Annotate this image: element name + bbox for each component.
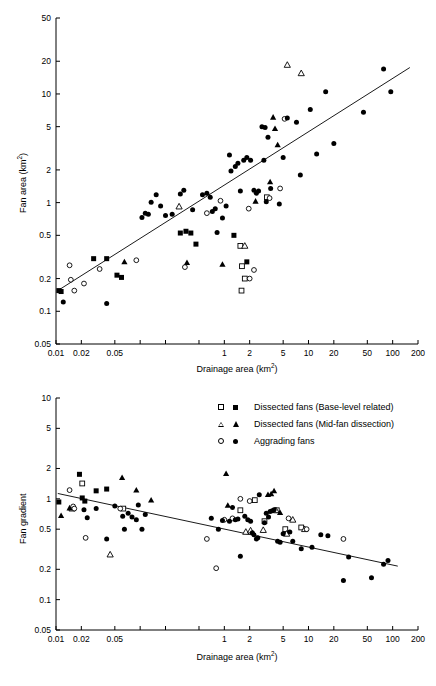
- data-point-circle-filled: [235, 517, 240, 522]
- data-point-triangle-filled: [267, 179, 273, 185]
- triangle-filled-icon: [233, 421, 239, 427]
- chart-panel-fan-area: 0.010.020.051251020501002000.050.10.20.5…: [0, 0, 436, 380]
- data-point-circle-open: [218, 198, 223, 203]
- y-tick-label: 0.2: [39, 564, 51, 574]
- data-point-circle-filled: [139, 215, 144, 220]
- data-point-circle-filled: [208, 195, 213, 200]
- data-point-circle-filled: [227, 519, 232, 524]
- data-point-square-filled: [178, 231, 183, 236]
- data-point-circle-filled: [228, 169, 233, 174]
- data-point-circle-open: [97, 267, 102, 272]
- data-point-circle-filled: [227, 152, 232, 157]
- data-point-triangle-open: [176, 203, 182, 209]
- data-point-circle-filled: [134, 517, 139, 522]
- data-point-circle-filled: [281, 155, 286, 160]
- data-point-triangle-filled: [121, 259, 127, 265]
- data-point-circle-filled: [268, 186, 273, 191]
- data-point-circle-filled: [158, 204, 163, 209]
- data-point-square-open: [80, 481, 85, 486]
- data-point-circle-filled: [120, 514, 125, 519]
- data-point-circle-filled: [146, 212, 151, 217]
- data-point-circle-open: [182, 265, 187, 270]
- chart-panel-fan-gradient: 0.010.020.051251020501002000.050.10.20.5…: [0, 378, 436, 686]
- data-point-circle-open: [118, 506, 123, 511]
- data-point-square-open: [239, 288, 244, 293]
- data-point-circle-filled: [266, 515, 271, 520]
- data-point-circle-filled: [181, 188, 186, 193]
- data-point-circle-open: [214, 566, 219, 571]
- legend-item-dissected-base-level: Dissected fans (Base-level related): [218, 400, 394, 414]
- data-point-circle-open: [72, 506, 77, 511]
- data-point-circle-open: [134, 258, 139, 263]
- data-point-circle-open: [204, 537, 209, 542]
- data-point-circle-filled: [230, 505, 235, 510]
- x-tick-label: 5: [281, 348, 286, 358]
- x-tick-label: 0.01: [48, 348, 65, 358]
- data-point-circle-open: [247, 276, 252, 281]
- data-point-triangle-filled: [272, 125, 278, 131]
- regression-trendline: [58, 68, 410, 291]
- data-point-triangle-filled: [270, 114, 276, 120]
- data-point-circle-open: [278, 186, 283, 191]
- y-tick-label: 0.1: [39, 595, 51, 605]
- data-point-square-filled: [94, 488, 99, 493]
- x-axis-title-tail: ): [275, 652, 278, 662]
- square-open-icon: [218, 404, 224, 410]
- data-point-circle-filled: [238, 554, 243, 559]
- y-tick-label: 20: [42, 56, 52, 66]
- data-point-circle-filled: [281, 531, 286, 536]
- x-tick-label: 2: [247, 634, 252, 644]
- data-point-circle-filled: [287, 529, 292, 534]
- x-tick-label: 0.05: [107, 634, 124, 644]
- data-point-square-filled: [231, 233, 236, 238]
- data-point-triangle-filled: [223, 470, 229, 476]
- y-tick-label: 0.05: [34, 339, 51, 349]
- data-point-triangle-filled: [133, 487, 139, 493]
- y-axis-title-superscript: 2: [16, 156, 23, 160]
- x-tick-label: 20: [329, 634, 339, 644]
- y-tick-label: 1: [46, 494, 51, 504]
- data-point-circle-filled: [215, 230, 220, 235]
- data-point-circle-filled: [369, 575, 374, 580]
- data-point-circle-filled: [130, 515, 135, 520]
- x-tick-label: 200: [411, 634, 425, 644]
- x-tick-label: 0.02: [73, 634, 90, 644]
- data-point-square-open: [252, 498, 257, 503]
- data-point-circle-filled: [325, 533, 330, 538]
- data-point-circle-filled: [263, 125, 268, 130]
- data-point-square-filled: [114, 273, 119, 278]
- legend-label: Dissected fans (Mid-fan dissection): [254, 419, 394, 429]
- data-point-triangle-filled: [219, 261, 225, 267]
- data-point-circle-filled: [278, 540, 283, 545]
- y-tick-label: 10: [42, 89, 52, 99]
- data-point-circle-filled: [235, 161, 240, 166]
- x-tick-label: 10: [304, 348, 314, 358]
- x-tick-label: 100: [386, 348, 400, 358]
- data-point-circle-filled: [238, 188, 243, 193]
- data-point-circle-filled: [204, 191, 209, 196]
- data-point-circle-filled: [149, 200, 154, 205]
- data-point-circle-filled: [104, 536, 109, 541]
- y-tick-label: 2: [46, 463, 51, 473]
- data-point-square-filled: [244, 259, 249, 264]
- y-tick-label: 5: [46, 122, 51, 132]
- data-point-circle-open: [304, 527, 309, 532]
- data-point-circle-filled: [170, 212, 175, 217]
- data-point-square-open: [240, 264, 245, 269]
- data-point-circle-filled: [224, 204, 229, 209]
- x-tick-label: 0.05: [107, 348, 124, 358]
- data-point-circle-filled: [341, 578, 346, 583]
- data-point-circle-filled: [290, 539, 295, 544]
- data-point-circle-open: [68, 277, 73, 282]
- data-point-circle-open: [247, 499, 252, 504]
- data-point-circle-filled: [190, 207, 195, 212]
- data-point-circle-filled: [314, 152, 319, 157]
- data-point-circle-filled: [248, 519, 253, 524]
- data-point-square-filled: [104, 487, 109, 492]
- data-point-circle-filled: [381, 562, 386, 567]
- y-axis-title-tail: ): [18, 153, 28, 156]
- data-point-circle-filled: [298, 172, 303, 177]
- y-axis-title-fan-gradient: Fan gradient: [18, 493, 28, 544]
- x-axis-title-text: Drainage area (km: [196, 364, 271, 374]
- data-point-square-filled: [188, 231, 193, 236]
